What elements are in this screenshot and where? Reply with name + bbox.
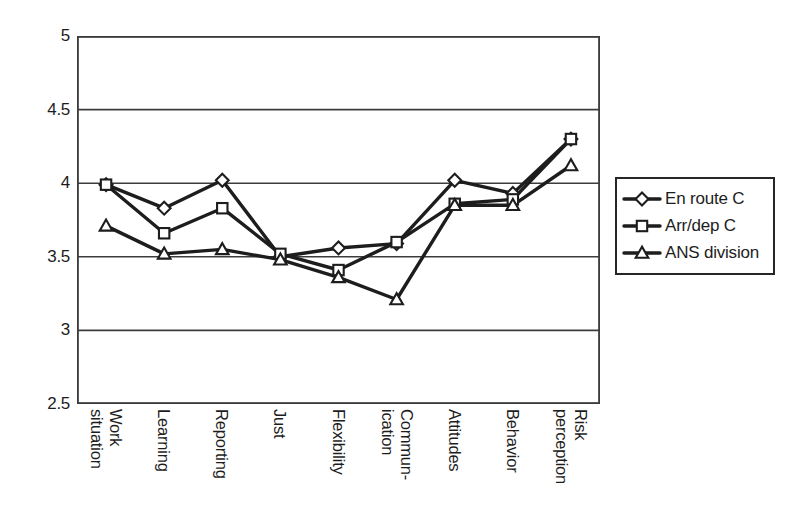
square-marker (101, 179, 111, 189)
square-marker (217, 203, 227, 213)
x-tick-label: Attitudes (426, 409, 484, 521)
x-tick-label-line2: situation (87, 409, 106, 469)
triangle-marker (100, 220, 113, 231)
x-tick-label-line1: Attitudes (446, 409, 464, 471)
diamond-marker (158, 202, 171, 215)
legend-label: Arr/dep C (665, 216, 736, 235)
square-marker (566, 134, 576, 144)
line-chart: 54.543.532.5 WorksituationLearningReport… (0, 0, 806, 524)
series-line (106, 139, 571, 257)
y-tick-label: 4 (30, 174, 70, 191)
legend-item: Arr/dep C (622, 212, 766, 239)
y-tick-label: 5 (30, 27, 70, 44)
diamond-legend-icon (622, 189, 662, 209)
x-tick-label: Learning (135, 409, 193, 521)
legend-item: ANS division (622, 239, 766, 266)
x-tick-label-line2: perception (552, 409, 571, 484)
square-legend-icon (622, 216, 662, 236)
legend: En route CArr/dep CANS division (615, 177, 775, 275)
x-tick-label: Behavior (484, 409, 542, 521)
triangle-legend-icon (622, 243, 662, 263)
plot-svg (77, 36, 600, 404)
x-tick-label: Flexibility (310, 409, 368, 521)
y-tick-label: 2.5 (30, 395, 70, 412)
plot-area (77, 36, 600, 404)
x-tick-label-line1: Behavior (504, 409, 522, 473)
plot-frame (78, 37, 599, 403)
x-tick-label-line1: Reporting (213, 409, 231, 479)
x-tick-label-line2: ication (378, 409, 397, 480)
x-tick-label-line1: Learning (155, 409, 173, 472)
legend-label: ANS division (665, 243, 759, 262)
square-marker (637, 220, 647, 230)
x-tick-label: Worksituation (77, 409, 135, 521)
x-tick-label: Reporting (193, 409, 251, 521)
y-axis: 54.543.532.5 (22, 0, 70, 524)
series-en-route-c (106, 139, 571, 257)
square-marker (391, 237, 401, 247)
triangle-marker (565, 159, 578, 170)
square-marker (159, 228, 169, 238)
legend-item: En route C (622, 185, 766, 212)
x-axis: WorksituationLearningReportingJustFlexib… (77, 409, 600, 524)
x-tick-label-line1: Just (271, 409, 289, 438)
y-tick-label: 3.5 (30, 248, 70, 265)
x-tick-label: Just (251, 409, 309, 521)
y-tick-label: 4.5 (30, 101, 70, 118)
diamond-marker (332, 242, 345, 255)
diamond-marker (636, 192, 649, 205)
legend-label: En route C (665, 189, 744, 208)
x-tick-label-line1: Work (107, 409, 125, 446)
y-tick-label: 3 (30, 321, 70, 338)
x-tick-label-line1: Risk (572, 409, 590, 440)
x-tick-label: Commun-ication (368, 409, 426, 521)
x-tick-label-line1: Flexibility (330, 409, 348, 475)
x-tick-label: Riskperception (542, 409, 600, 521)
x-tick-label-line1: Commun- (398, 409, 416, 480)
series-markers (100, 133, 578, 264)
